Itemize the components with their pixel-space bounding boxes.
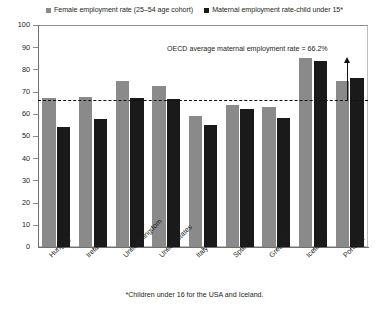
legend-label-maternal-employment: Maternal employment rate-child under 15* (212, 6, 343, 14)
y-axis-tick-label: 90 (6, 43, 30, 52)
y-axis-tick-label: 80 (6, 65, 30, 74)
y-axis-tick-label: 40 (6, 154, 30, 163)
bar-female-employment (42, 98, 55, 247)
bar-group (262, 25, 290, 247)
bar-maternal-employment (204, 125, 217, 247)
bar-female-employment (336, 81, 349, 248)
oecd-average-annotation: OECD average maternal employment rate = … (167, 45, 328, 53)
bar-group (42, 25, 70, 247)
legend-item-maternal-employment: Maternal employment rate-child under 15* (204, 6, 343, 14)
bar-maternal-employment (240, 109, 253, 247)
bars-layer (38, 25, 368, 247)
y-axis-tick-label: 60 (6, 109, 30, 118)
y-axis-tick-label: 20 (6, 198, 30, 207)
bar-female-employment (116, 81, 129, 248)
employment-rate-bar-chart: Female employment rate (25–54 age cohort… (0, 0, 389, 310)
legend-swatch-maternal-employment (204, 8, 209, 13)
y-axis-tick-label: 50 (6, 131, 30, 140)
bar-group (299, 25, 327, 247)
bar-maternal-employment (57, 127, 70, 247)
bar-group (189, 25, 217, 247)
bar-group (79, 25, 107, 247)
bar-group (226, 25, 254, 247)
arrow-stem (347, 63, 348, 100)
legend-item-female-employment: Female employment rate (25–54 age cohort… (46, 6, 193, 14)
chart-legend: Female employment rate (25–54 age cohort… (0, 6, 389, 14)
legend-label-female-employment: Female employment rate (25–54 age cohort… (54, 6, 193, 14)
y-axis-tick-label: 0 (6, 242, 30, 251)
bar-maternal-employment (167, 99, 180, 247)
bar-female-employment (226, 105, 239, 247)
bar-maternal-employment (94, 119, 107, 247)
y-axis-tick-label: 10 (6, 220, 30, 229)
bar-group (152, 25, 180, 247)
bar-female-employment (79, 97, 92, 247)
oecd-average-reference-line (38, 100, 368, 101)
bar-maternal-employment (314, 61, 327, 247)
legend-swatch-female-employment (46, 8, 51, 13)
y-axis-tick-label: 30 (6, 176, 30, 185)
bar-female-employment (262, 107, 275, 247)
bar-maternal-employment (350, 78, 363, 247)
bar-female-employment (299, 58, 312, 247)
bar-group (116, 25, 144, 247)
x-axis-labels: HungaryIrelandUnited KingdomUnited State… (38, 249, 368, 297)
chart-footnote: *Children under 16 for the USA and Icela… (0, 291, 389, 299)
bar-maternal-employment (130, 98, 143, 247)
y-axis-tick-label: 70 (6, 87, 30, 96)
bar-maternal-employment (277, 118, 290, 247)
y-axis-tick-label: 100 (6, 20, 30, 29)
